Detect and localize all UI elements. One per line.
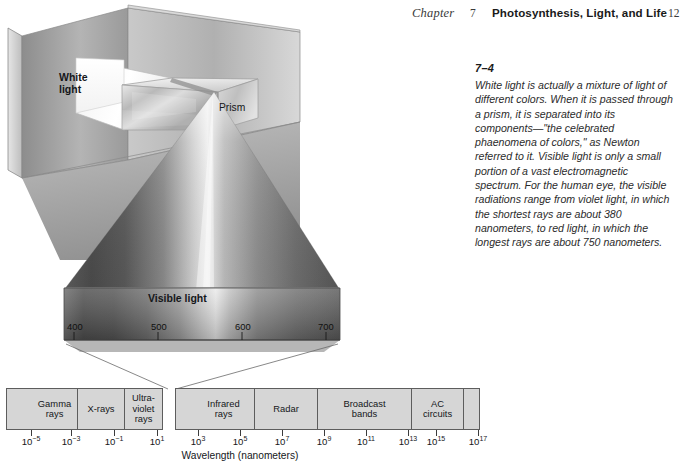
ultraviolet-line2: violet [133,403,155,414]
spectrum-cell-trailing-blank-right [464,389,480,429]
electromagnetic-spectrum-scale: Gamma rays X-rays Ultra- violet rays Inf… [0,388,682,471]
tick-base-4: 10 [191,436,202,447]
tick-base-7: 10 [317,436,328,447]
gamma-rays-line1: Gamma [38,398,71,409]
tick-exp-8: 11 [368,435,375,442]
figure-caption-text: White light is actually a mixture of lig… [475,78,675,250]
spectrum-cell-broadcast-bands[interactable]: Broadcast bands [318,389,412,429]
x-rays-line1: X-rays [87,404,114,414]
tick-exp-4: 3 [201,435,205,442]
visible-tick-600: 600 [235,321,251,332]
tick-base-11: 10 [469,436,480,447]
spectrum-bar-right: Infrared rays Radar Broadcast bands AC c… [175,388,480,430]
ultraviolet-line3: rays [135,413,153,424]
scale-tick-label-1: 10−3 [62,435,81,447]
scale-tick-label-2: 10−1 [105,435,124,447]
scale-tick-label-6: 107 [275,435,290,447]
spectrum-cell-ultraviolet-rays[interactable]: Ultra- violet rays [125,389,162,429]
spectrum-bar-left: Gamma rays X-rays Ultra- violet rays [6,388,163,430]
tick-base-5: 10 [233,436,244,447]
scale-tick-label-3: 101 [150,435,165,447]
broadcast-line1: Broadcast [343,398,385,409]
ac-circuits-line1: AC [431,398,444,409]
page-root: Chapter 7 Photosynthesis, Light, and Lif… [0,0,682,471]
spectrum-cell-ac-circuits[interactable]: AC circuits [412,389,464,429]
tick-exp-2: −1 [115,435,123,442]
spectrum-cell-x-rays[interactable]: X-rays [78,389,125,429]
tick-exp-9: 13 [409,435,417,442]
running-head-title: Photosynthesis, Light, and Life [492,6,667,19]
tick-exp-5: 5 [243,435,247,442]
scale-tick-label-11: 1017 [469,435,487,447]
ultraviolet-line1: Ultra- [132,392,155,403]
page-number: 12 [668,7,680,19]
white-light-label: White light [59,71,88,95]
scale-tick-label-10: 1015 [427,435,445,447]
scale-tick-label-4: 103 [191,435,206,447]
tick-base-3: 10 [150,436,161,447]
tick-exp-6: 7 [285,435,289,442]
tick-base-1: 10 [62,436,73,447]
figure-caption: 7–4 White light is actually a mixture of… [475,62,675,250]
spectrum-cell-radar[interactable]: Radar [255,389,318,429]
running-head-chapter-number: 7 [470,7,476,19]
white-light-label-line1: White [59,71,88,83]
tick-base-9: 10 [399,436,410,447]
visible-light-label: Visible light [148,292,207,304]
radar-line1: Radar [273,404,299,414]
tick-exp-3: 1 [160,435,164,442]
ac-circuits-line2: circuits [423,408,452,419]
visible-tick-400: 400 [67,321,83,332]
tick-exp-0: −5 [32,435,40,442]
broadcast-line2: bands [352,408,378,419]
tick-exp-1: −3 [72,435,80,442]
scale-tick-label-0: 10−5 [22,435,41,447]
tick-base-8: 10 [357,436,368,447]
white-light-label-line2: light [59,83,88,95]
tick-exp-10: 15 [437,435,445,442]
visible-tick-700: 700 [318,321,334,332]
infrared-line1: Infrared [207,398,239,409]
infrared-line2: rays [215,408,233,419]
tick-base-0: 10 [22,436,33,447]
scale-tick-label-9: 1013 [399,435,417,447]
spectrum-cell-leading-blank [6,389,32,429]
spectrum-cell-trailing-blank-left [175,389,193,429]
tick-exp-11: 17 [479,435,487,442]
spectrum-cell-gamma-rays[interactable]: Gamma rays [32,389,78,429]
spectrum-cell-infrared-rays[interactable]: Infrared rays [193,389,255,429]
prism-label: Prism [219,102,245,114]
tick-exp-7: 9 [327,435,331,442]
scale-tick-label-5: 105 [233,435,248,447]
prism-illustration-svg [0,0,420,392]
prism-illustration: White light Prism Visible light 400 500 … [0,0,420,390]
tick-base-10: 10 [427,436,438,447]
scale-tick-label-8: 1011 [357,435,375,447]
visible-tick-500: 500 [151,321,167,332]
figure-number: 7–4 [475,62,675,74]
wavelength-axis-title: Wavelength (nanometers) [0,450,480,461]
gamma-rays-line2: rays [46,408,64,419]
tick-base-2: 10 [105,436,116,447]
tick-base-6: 10 [275,436,286,447]
scale-tick-label-7: 109 [317,435,332,447]
